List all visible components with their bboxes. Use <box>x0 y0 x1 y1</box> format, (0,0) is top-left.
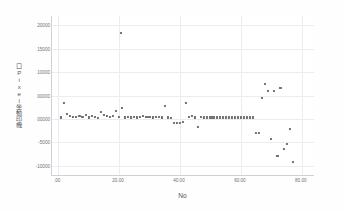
x-axis-tick-labels: .0020.0040.0060.0080.00 <box>51 178 314 188</box>
data-point <box>191 115 193 117</box>
gridline-horizontal <box>52 72 314 73</box>
data-point <box>106 115 108 117</box>
data-point <box>103 114 105 116</box>
data-point <box>270 137 272 139</box>
data-point <box>81 115 83 117</box>
y-tick-label: 00000 <box>22 116 50 121</box>
data-point <box>69 115 71 117</box>
gridline-vertical <box>58 16 59 175</box>
gridline-horizontal <box>52 96 314 97</box>
data-point <box>200 116 202 118</box>
y-tick-label: -10000 <box>22 163 50 168</box>
x-axis-title: No <box>51 192 314 199</box>
data-point <box>121 107 123 109</box>
plot-area <box>51 16 314 176</box>
data-point <box>127 116 129 118</box>
data-point <box>112 115 114 117</box>
gridline-horizontal <box>52 142 314 143</box>
data-point <box>145 115 147 117</box>
data-point <box>267 90 269 92</box>
data-point <box>119 32 121 34</box>
data-point <box>255 132 257 134</box>
data-point <box>158 116 160 118</box>
y-tick-label: -5000 <box>22 140 50 145</box>
x-tick-label: 80.00 <box>295 178 307 183</box>
data-point <box>100 111 102 113</box>
y-axis-tick-labels: 2000015000100000000000000-5000-10000 <box>22 18 50 174</box>
x-tick-label: 60.00 <box>234 178 246 183</box>
data-point <box>91 115 93 117</box>
data-point <box>276 155 278 157</box>
data-point <box>142 115 144 117</box>
data-point <box>84 114 86 116</box>
gridline-vertical <box>302 16 303 175</box>
data-point <box>133 115 135 117</box>
data-point <box>289 128 291 130</box>
gridline-vertical <box>241 16 242 175</box>
data-point <box>78 115 80 117</box>
x-tick-label: 40.00 <box>173 178 185 183</box>
y-tick-label: 20000 <box>22 23 50 28</box>
data-point <box>66 113 68 115</box>
data-point <box>109 116 111 118</box>
data-point <box>155 115 157 117</box>
data-point <box>75 116 77 118</box>
gridline-vertical <box>180 16 181 175</box>
data-point <box>292 161 294 163</box>
data-point <box>176 122 178 124</box>
x-tick-label: .00 <box>54 178 60 183</box>
data-point <box>115 110 117 112</box>
y-tick-label: 15000 <box>22 46 50 51</box>
data-point <box>279 87 281 89</box>
data-point <box>72 115 74 117</box>
data-point <box>148 116 150 118</box>
data-point <box>185 101 187 103</box>
data-point <box>286 143 288 145</box>
data-point <box>173 122 175 124</box>
gridline-horizontal <box>52 119 314 120</box>
scatter-chart: 口Pixel坐動印機 2000015000100000000000000-500… <box>0 0 346 211</box>
data-point <box>273 90 275 92</box>
data-point <box>258 132 260 134</box>
gridline-horizontal <box>52 25 314 26</box>
y-tick-label: 10000 <box>22 70 50 75</box>
y-tick-label: 00000 <box>22 93 50 98</box>
data-point <box>139 116 141 118</box>
data-point <box>261 97 263 99</box>
data-point <box>164 105 166 107</box>
data-point <box>182 121 184 123</box>
x-tick-label: 20.00 <box>112 178 124 183</box>
gridline-horizontal <box>52 49 314 50</box>
data-point <box>94 115 96 117</box>
data-point <box>282 148 284 150</box>
data-point <box>188 115 190 117</box>
data-point <box>63 102 65 104</box>
gridline-vertical <box>119 16 120 175</box>
gridline-horizontal <box>52 166 314 167</box>
data-point <box>197 126 199 128</box>
data-point <box>264 83 266 85</box>
